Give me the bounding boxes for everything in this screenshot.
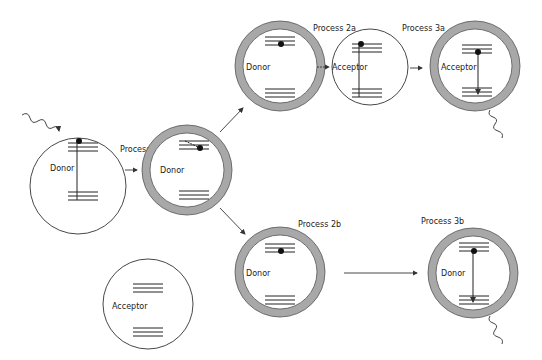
donor-initial-node: Donor [30,138,126,234]
donor-2a-node: Donor [235,21,325,111]
emitted-photon-icon [489,110,503,138]
process-3b-label: Process 3b [421,217,464,226]
acceptor-label: Acceptor [112,302,148,311]
donor-label: Donor [246,63,271,72]
process-2b-label: Process 2b [298,220,341,229]
incoming-photon-icon [22,114,59,131]
diagram-canvas: Donor Process 1 Donor Donor Process 2a [0,0,542,360]
donor-label: Donor [160,166,185,175]
acceptor-3a-node: Acceptor [430,21,520,111]
donor-label: Donor [50,164,75,173]
acceptor-label: Acceptor [332,63,368,72]
process-2a-label: Process 2a [313,24,356,33]
acceptor-2a-node: Acceptor [332,29,408,105]
acceptor-label: Acceptor [441,63,477,72]
emitted-photon-icon [489,316,503,344]
donor-shelled-node: Donor [142,125,232,215]
acceptor-free-node: Acceptor [103,259,193,349]
donor-3b-node: Donor [428,228,518,318]
process-3a-label: Process 3a [402,24,445,33]
donor-2b-node: Donor [235,227,325,317]
donor-label: Donor [441,269,466,278]
donor-label: Donor [246,269,271,278]
